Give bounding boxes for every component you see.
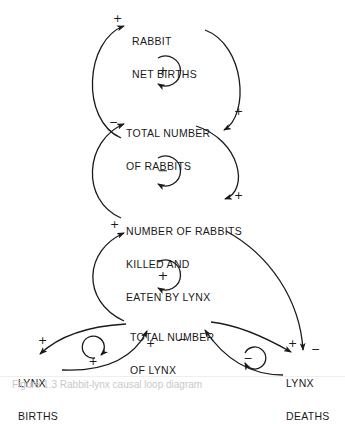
polarity-sign: +	[288, 338, 297, 349]
polarity-sign: −	[311, 344, 320, 355]
node-rabbit-net-births: RABBIT NET BIRTHS	[132, 14, 197, 102]
polarity-sign: +	[234, 106, 243, 117]
node-label-line: RABBIT	[132, 36, 197, 47]
arrow-lynx-to-killed	[93, 233, 124, 321]
node-label-line: TOTAL NUMBER	[126, 128, 211, 139]
arrow-killed-to-rabbits	[92, 124, 124, 218]
node-lynx-deaths: LYNX DEATHS	[286, 356, 330, 424]
svg-text:+: +	[88, 355, 97, 368]
node-label-line: TOTAL NUMBER	[130, 332, 215, 343]
node-lynx-births: LYNX BIRTHS	[18, 356, 58, 424]
polarity-sign: +	[38, 335, 47, 346]
node-label-line: OF LYNX	[130, 365, 215, 376]
page-divider	[0, 376, 345, 377]
node-label-line: OF RABBITS	[126, 161, 211, 172]
node-label-line: EATEN BY LYNX	[126, 292, 242, 303]
polarity-sign: −	[178, 334, 187, 345]
polarity-sign: +	[110, 219, 119, 230]
node-label-line: NUMBER OF RABBITS	[126, 226, 242, 237]
polarity-sign: +	[234, 190, 243, 201]
node-label-line: KILLED AND	[126, 259, 242, 270]
polarity-sign: +	[113, 13, 122, 24]
node-label-line: BIRTHS	[18, 411, 58, 422]
node-rabbits-killed: NUMBER OF RABBITS KILLED AND EATEN BY LY…	[126, 204, 242, 325]
polarity-sign: +	[146, 338, 155, 349]
node-label-line: DEATHS	[286, 411, 330, 422]
node-label-line: NET BIRTHS	[132, 69, 197, 80]
figure-caption: Figure 1.3 Rabbit-lynx causal loop diagr…	[12, 379, 202, 390]
node-label-line: LYNX	[286, 378, 330, 389]
polarity-sign: −	[109, 117, 118, 128]
svg-text:−: −	[243, 352, 252, 365]
node-total-rabbits: TOTAL NUMBER OF RABBITS	[126, 106, 211, 194]
